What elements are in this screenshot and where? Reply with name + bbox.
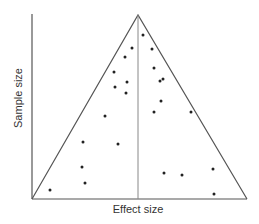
data-point (104, 115, 107, 118)
x-axis-label: Effect size (88, 203, 188, 215)
data-point (153, 111, 156, 114)
data-point (125, 92, 128, 95)
axes (32, 14, 247, 199)
data-point (113, 71, 116, 74)
funnel-plot (0, 0, 259, 224)
data-point (181, 174, 184, 177)
data-point (190, 111, 193, 114)
data-point (163, 172, 166, 175)
data-point (162, 78, 165, 81)
data-point (213, 193, 216, 196)
data-point (81, 166, 84, 169)
data-point (126, 81, 129, 84)
y-axis-label: Sample size (12, 63, 24, 133)
data-point (160, 100, 163, 103)
data-point (131, 47, 134, 50)
data-point (117, 143, 120, 146)
data-point (142, 34, 145, 37)
data-point (84, 182, 87, 185)
data-point (159, 80, 162, 83)
data-points (49, 34, 216, 196)
data-point (114, 86, 117, 89)
data-point (151, 48, 154, 51)
funnel-triangle (32, 15, 247, 199)
data-point (124, 56, 127, 59)
funnel-edges (32, 15, 247, 199)
data-point (82, 141, 85, 144)
data-point (49, 189, 52, 192)
data-point (212, 168, 215, 171)
data-point (153, 67, 156, 70)
